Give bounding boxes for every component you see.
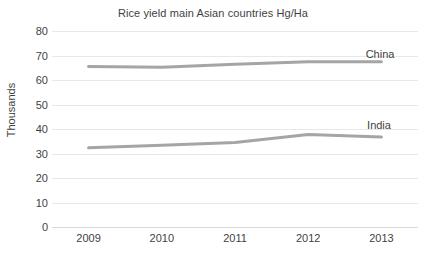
chart-container: Rice yield main Asian countries Hg/Ha Th… — [0, 0, 426, 257]
series-label-india: India — [367, 119, 391, 131]
series-label-china: China — [366, 48, 395, 60]
series-line-india — [89, 134, 382, 147]
series-line-china — [89, 62, 382, 67]
series-lines — [0, 0, 426, 257]
